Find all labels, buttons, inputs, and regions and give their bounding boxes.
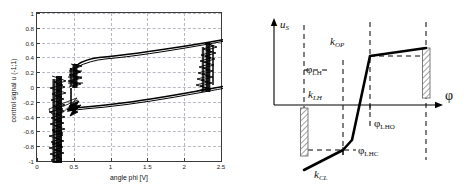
measurement-curves <box>37 13 223 163</box>
hatch-right <box>423 48 431 98</box>
label-k-op: kOP <box>330 35 345 49</box>
y-tick-label: -1 <box>28 158 34 165</box>
noise-band-right <box>196 42 217 92</box>
construction-lines <box>304 22 426 160</box>
measurement-plot-panel: 1 0.8 0.6 0.4 0.2 0 -0.2 -0.4 -0.6 -0.8 … <box>0 0 240 189</box>
y-tick-label: 0.6 <box>25 39 34 46</box>
label-phi-lh: φLH <box>306 63 322 77</box>
label-k-lh: kLH <box>308 88 323 102</box>
y-tick-label: 0.2 <box>25 69 34 76</box>
noise-band-low-angle <box>49 76 66 163</box>
figure-container: 1 0.8 0.6 0.4 0.2 0 -0.2 -0.4 -0.6 -0.8 … <box>0 0 466 189</box>
plot-axes-box: 1 0.8 0.6 0.4 0.2 0 -0.2 -0.4 -0.6 -0.8 … <box>36 12 222 162</box>
hatch-left <box>301 108 309 156</box>
horizontal-helpers <box>304 56 426 150</box>
x-tick-label: 1 <box>109 163 112 170</box>
x-tick-label: 1.5 <box>143 163 152 170</box>
x-axis-title: angle phi [V] <box>36 174 222 181</box>
y-tick-label: -0.2 <box>23 98 34 105</box>
y-tick-label: 1 <box>31 10 34 17</box>
x-axis-arrowhead <box>435 102 443 108</box>
y-axis-arrowhead <box>271 18 277 26</box>
noise-band-transition <box>68 64 83 88</box>
y-tick-label: -0.6 <box>23 128 34 135</box>
y-tick-label: 0.8 <box>25 24 34 31</box>
x-tick-label: 2 <box>182 163 185 170</box>
characteristic-diagram: uS φ kOP φLH kLH φLHO φLHC kCL <box>240 0 466 189</box>
x-tick-label: 2.5 <box>217 163 226 170</box>
label-us: uS <box>280 18 290 32</box>
label-k-cl: kCL <box>314 168 328 182</box>
schematic-characteristic-panel: uS φ kOP φLH kLH φLHO φLHC kCL <box>240 0 466 189</box>
x-tick-label: 0.5 <box>69 163 78 170</box>
y-tick-label: 0 <box>31 84 34 91</box>
label-phi-lho: φLHO <box>374 117 395 131</box>
y-tick-label: -0.4 <box>23 113 34 120</box>
y-tick-label: -0.8 <box>23 143 34 150</box>
upper-branch-shadow <box>77 41 223 67</box>
diagram-labels: uS φ kOP φLH kLH φLHO φLHC kCL <box>280 18 453 182</box>
x-tick-label: 0 <box>35 163 38 170</box>
y-axis <box>271 18 277 105</box>
y-tick-label: 0.4 <box>25 54 34 61</box>
axis-ticks <box>343 105 370 155</box>
y-axis-title: control signal u (-1;1) <box>10 26 17 156</box>
label-phi-lhc: φLHC <box>358 144 379 158</box>
label-phi-axis: φ <box>445 88 453 103</box>
